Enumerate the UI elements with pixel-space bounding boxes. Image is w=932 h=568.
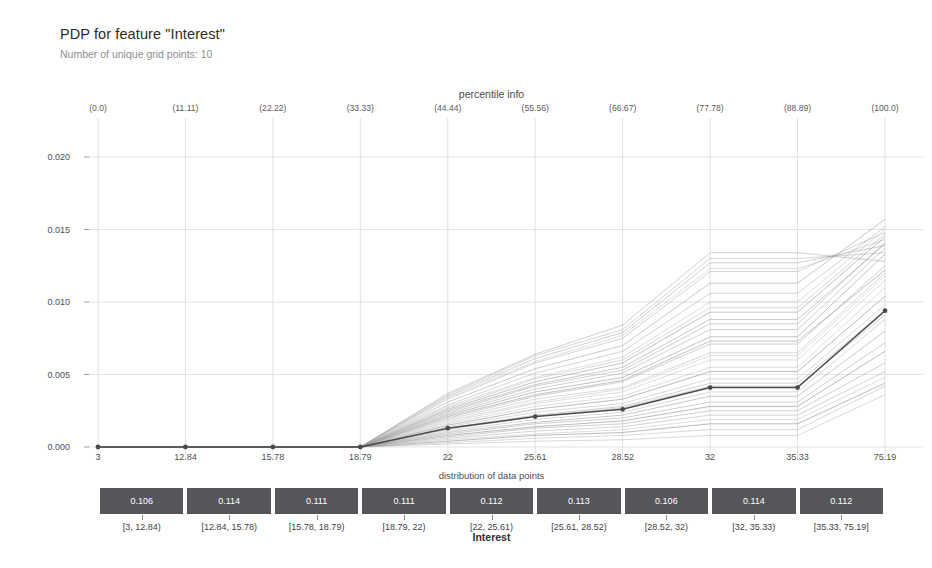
distribution-bar: 0.113 xyxy=(537,488,620,514)
ice-line xyxy=(98,305,885,447)
distribution-bar: 0.112 xyxy=(450,488,533,514)
x-tick-label: 25.61 xyxy=(524,452,547,462)
distribution-tick xyxy=(229,515,230,520)
distribution-bar-range: [15.78, 18.79) xyxy=(289,522,345,532)
ice-line xyxy=(98,253,885,447)
ice-line xyxy=(98,395,885,447)
ice-line xyxy=(98,243,885,447)
distribution-bar: 0.114 xyxy=(712,488,795,514)
ice-line xyxy=(98,240,885,447)
x-tick-label: 15.78 xyxy=(262,452,285,462)
ice-line xyxy=(98,266,885,447)
y-tick-label: 0.020 xyxy=(24,152,70,162)
pdp-figure: PDP for feature "Interest" Number of uni… xyxy=(0,0,932,568)
ice-line xyxy=(98,244,885,447)
distribution-bar-range: [18.79, 22) xyxy=(383,522,426,532)
x-tick-label: 28.52 xyxy=(611,452,634,462)
distribution-bar-value: 0.106 xyxy=(130,496,153,506)
distribution-tick xyxy=(317,515,318,520)
distribution-bar-range: [32, 35.33) xyxy=(732,522,775,532)
distribution-bar: 0.114 xyxy=(187,488,270,514)
distribution-bar-range: [12.84, 15.78) xyxy=(201,522,257,532)
x-tick-label: 32 xyxy=(705,452,715,462)
distribution-tick xyxy=(404,515,405,520)
x-tick-label: 12.84 xyxy=(174,452,197,462)
distribution-bar-range: [3, 12.84) xyxy=(123,522,161,532)
y-tick-label: 0.000 xyxy=(24,442,70,452)
pdp-marker xyxy=(183,445,188,450)
distribution-bar: 0.111 xyxy=(275,488,358,514)
y-tick-label: 0.005 xyxy=(24,370,70,380)
distribution-bar-value: 0.112 xyxy=(481,496,503,506)
x-tick-label: 35.33 xyxy=(786,452,809,462)
distribution-bar-value: 0.111 xyxy=(306,496,327,506)
distribution-tick xyxy=(142,515,143,520)
x-tick-label: 3 xyxy=(95,452,100,462)
distribution-bar-value: 0.106 xyxy=(655,496,678,506)
distribution-tick xyxy=(492,515,493,520)
distribution-bar-range: [35.33, 75.19] xyxy=(814,522,869,532)
distribution-bar-value: 0.112 xyxy=(830,496,852,506)
distribution-bar-value: 0.114 xyxy=(743,496,765,506)
x-axis-label: Interest xyxy=(473,531,511,543)
distribution-bar-range: [28.52, 32) xyxy=(645,522,688,532)
distribution-tick xyxy=(579,515,580,520)
pdp-marker xyxy=(533,414,538,419)
distribution-bar: 0.111 xyxy=(362,488,445,514)
pdp-marker xyxy=(358,445,363,450)
distribution-bar: 0.106 xyxy=(625,488,708,514)
ice-lines-group xyxy=(98,219,885,447)
ice-line xyxy=(98,253,885,447)
ice-line xyxy=(98,230,885,448)
pdp-marker xyxy=(270,445,275,450)
distribution-bar: 0.112 xyxy=(800,488,883,514)
pdp-marker xyxy=(445,426,450,431)
y-tick-label: 0.015 xyxy=(24,225,70,235)
distribution-bar-value: 0.113 xyxy=(568,496,590,506)
pdp-marker xyxy=(795,385,800,390)
distribution-bar-value: 0.114 xyxy=(218,496,240,506)
pdp-marker xyxy=(708,385,713,390)
distribution-tick xyxy=(666,515,667,520)
distribution-bar: 0.106 xyxy=(100,488,183,514)
x-tick-label: 18.79 xyxy=(349,452,372,462)
distribution-title: distribution of data points xyxy=(439,470,545,481)
ice-line xyxy=(98,237,885,447)
pdp-marker xyxy=(96,445,101,450)
y-tick-label: 0.010 xyxy=(24,297,70,307)
ice-line xyxy=(98,270,885,447)
distribution-bar-value: 0.111 xyxy=(393,496,414,506)
distribution-tick xyxy=(754,515,755,520)
ice-line xyxy=(98,245,885,447)
pdp-marker xyxy=(620,407,625,412)
distribution-bar-range: [25.61, 28.52) xyxy=(551,522,607,532)
pdp-chart-svg xyxy=(0,0,932,568)
x-tick-label: 75.19 xyxy=(874,452,897,462)
ice-line xyxy=(98,296,885,447)
distribution-tick xyxy=(841,515,842,520)
plot-area xyxy=(0,0,932,568)
x-tick-label: 22 xyxy=(443,452,453,462)
pdp-marker xyxy=(883,308,888,313)
